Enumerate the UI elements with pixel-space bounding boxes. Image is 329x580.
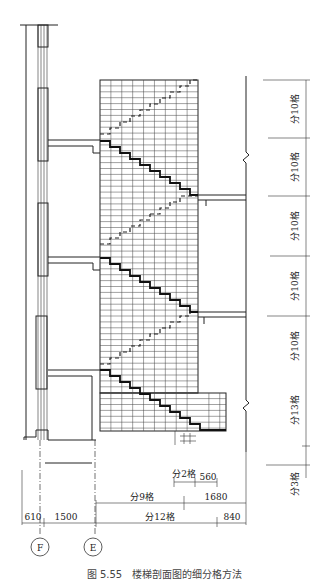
dim-label-12-grids: 分12格	[145, 511, 174, 522]
axis-lines	[31, 440, 102, 556]
dim-label-1680: 1680	[205, 492, 228, 502]
stair-section-drawing: F E 分2格 560 分9格 1680 610 1500 分12格 840	[0, 0, 329, 580]
dim-label-560: 560	[199, 472, 216, 482]
dim-label-2-grids: 分2格	[172, 468, 196, 479]
stair-flights-dashed	[100, 80, 198, 364]
vdim-label-1: 分10格	[289, 94, 300, 123]
vdim-label-3: 分10格	[289, 211, 300, 240]
left-wall	[20, 25, 58, 440]
vdim-label-2: 分10格	[289, 152, 300, 181]
axis-label-e: E	[90, 543, 97, 553]
vertical-dimensions	[263, 80, 310, 478]
vdim-label-6: 分13格	[289, 395, 300, 424]
axis-label-f: F	[37, 543, 43, 553]
vdim-label-7: 分3格	[289, 472, 300, 496]
dim-label-610: 610	[24, 512, 41, 522]
vdim-label-5: 分10格	[289, 331, 300, 360]
right-wall	[243, 76, 249, 452]
landings-right	[198, 195, 246, 324]
landings-left	[48, 140, 100, 440]
dim-label-840: 840	[223, 512, 240, 522]
dim-label-9-grids: 分9格	[130, 491, 154, 502]
dim-label-1500: 1500	[55, 512, 78, 522]
figure-caption: 图 5.55 楼梯剖面图的细分格方法	[0, 566, 329, 580]
subdivision-grid	[100, 80, 226, 431]
vdim-label-4: 分10格	[289, 271, 300, 300]
base-detail	[175, 431, 196, 445]
vertical-dimension-labels: 分10格 分10格 分10格 分10格 分10格 分13格 分3格	[289, 94, 300, 496]
